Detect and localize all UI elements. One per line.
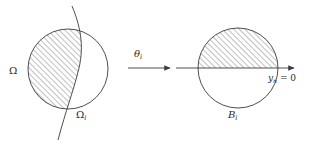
figure-canvas: Ω Ωi θi Bi yn = 0 [0,0,316,144]
label-plane-equation: yn = 0 [268,74,296,83]
label-theta-subscript: i [140,53,142,61]
label-theta-i: θi [134,49,142,59]
label-omega-i: Ωi [76,110,86,120]
left-panel-group [20,6,120,140]
right-panel-group [176,20,294,108]
label-ball-b-i: Bi [228,110,238,120]
label-omega: Ω [9,66,17,76]
diagram-svg [0,0,316,144]
label-plane-rest: = 0 [277,73,296,83]
omega-i-hatched-region [20,20,120,124]
label-ball-subscript: i [235,114,237,122]
label-plane-subscript: n [273,77,277,84]
